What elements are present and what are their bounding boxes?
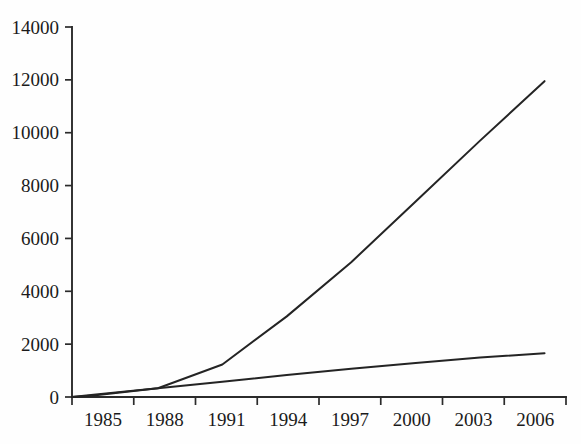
y-tick-label: 12000 bbox=[12, 69, 60, 90]
x-tick-label: 1985 bbox=[84, 409, 122, 430]
y-tick-labels: 02000400060008000100001200014000 bbox=[12, 17, 60, 408]
y-tick-label: 14000 bbox=[12, 17, 60, 38]
y-tick-label: 10000 bbox=[12, 122, 60, 143]
x-tick-labels: 19851988199119941997200020032006 bbox=[84, 409, 554, 430]
y-tick-label: 4000 bbox=[21, 281, 59, 302]
x-tick-label: 1991 bbox=[207, 409, 245, 430]
x-tick-label: 1994 bbox=[269, 409, 308, 430]
x-tick-label: 1997 bbox=[331, 409, 369, 430]
x-tick-label: 2003 bbox=[454, 409, 492, 430]
y-tick-marks bbox=[65, 27, 72, 397]
series-lower-series bbox=[72, 353, 545, 397]
x-tick-label: 2000 bbox=[393, 409, 431, 430]
y-axis-group: 02000400060008000100001200014000 bbox=[12, 17, 73, 408]
line-chart: 02000400060008000100001200014000 1985198… bbox=[0, 0, 581, 444]
x-tick-marks bbox=[72, 397, 566, 405]
x-axis-group: 19851988199119941997200020032006 bbox=[72, 397, 566, 430]
x-tick-label: 1988 bbox=[146, 409, 184, 430]
y-tick-label: 6000 bbox=[21, 228, 59, 249]
x-tick-label: 2006 bbox=[516, 409, 554, 430]
series-upper-series bbox=[72, 81, 545, 397]
y-tick-label: 0 bbox=[50, 387, 60, 408]
chart-canvas: 02000400060008000100001200014000 1985198… bbox=[0, 0, 581, 444]
data-series-group bbox=[72, 81, 545, 397]
y-tick-label: 8000 bbox=[21, 175, 59, 196]
y-tick-label: 2000 bbox=[21, 334, 59, 355]
